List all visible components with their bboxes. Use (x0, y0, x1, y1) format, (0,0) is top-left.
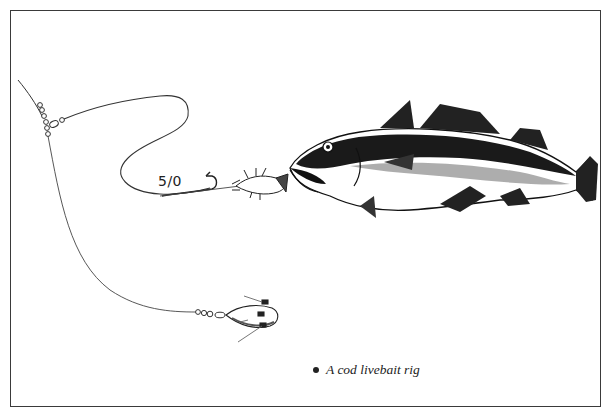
hook-trace (64, 96, 210, 195)
livebait-icon (232, 168, 288, 200)
weight-swivels (196, 310, 225, 318)
figure-caption: A cod livebait rig (313, 362, 420, 378)
cod-icon (290, 100, 598, 218)
bullet-icon (313, 367, 319, 373)
main-line (18, 80, 42, 116)
lead-weight-icon (226, 296, 278, 342)
rig-illustration (0, 0, 610, 419)
hook-size-label: 5/0 (158, 173, 182, 189)
caption-text: A cod livebait rig (326, 362, 420, 378)
weight-trace (48, 136, 196, 312)
swivel-beads (38, 103, 65, 137)
